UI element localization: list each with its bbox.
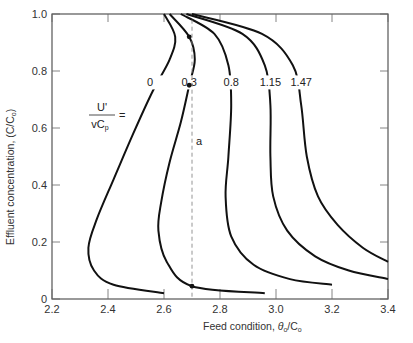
x-tick-label: 3.2	[324, 303, 339, 315]
curve-1-15	[186, 14, 388, 279]
plot-frame	[52, 14, 388, 299]
curve-label: 0.8	[224, 76, 239, 88]
curve-0-3	[158, 14, 265, 293]
y-tick-label: 0.2	[32, 236, 47, 248]
x-axis-title: Feed condition, θo/Co	[203, 320, 302, 333]
y-tick-label: 1.0	[32, 8, 47, 20]
x-tick-label: 2.6	[156, 303, 171, 315]
data-marker	[187, 34, 192, 39]
x-tick-label: 3.4	[380, 303, 395, 315]
curves: 00.30.81.151.47	[88, 14, 388, 293]
x-tick-label: 2.4	[100, 303, 115, 315]
parameter-label: U' vCp =	[89, 101, 125, 132]
y-tick-label: 0.6	[32, 122, 47, 134]
x-tick-label: 3.0	[268, 303, 283, 315]
svg-text:U': U'	[97, 101, 107, 113]
svg-text:vCp: vCp	[91, 118, 108, 132]
y-tick-label: 0	[41, 293, 47, 305]
chart: 2.22.42.62.83.03.23.400.20.40.60.81.0 00…	[0, 0, 413, 343]
x-tick-label: 2.8	[212, 303, 227, 315]
data-marker	[187, 83, 192, 88]
reference-label-a: a	[196, 135, 203, 147]
y-axis-title: Effluent concentration, (C/Co)	[4, 109, 17, 245]
svg-text:=: =	[119, 109, 125, 121]
curve-label: 1.15	[260, 76, 281, 88]
data-marker	[190, 284, 195, 289]
curve-1-47	[192, 14, 388, 262]
curve-label: 1.47	[290, 76, 311, 88]
y-tick-label: 0.4	[32, 179, 47, 191]
curve-0-8	[181, 14, 332, 285]
curve-label: 0	[147, 76, 153, 88]
y-tick-label: 0.8	[32, 65, 47, 77]
